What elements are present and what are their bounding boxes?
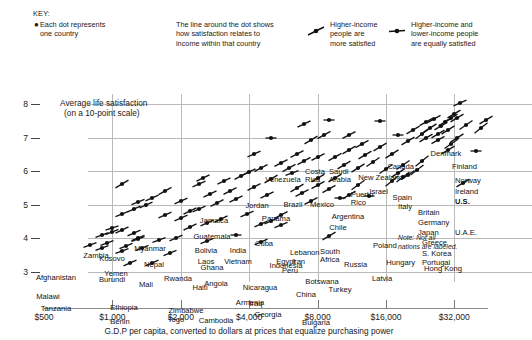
point-label-canada: Canada: [387, 163, 414, 171]
point-label-bolivia: Bolivia: [195, 247, 217, 255]
point-label-jordan: Jordan: [245, 202, 268, 210]
y-tick-label: 7: [12, 133, 28, 143]
point-label-angola: Angola: [204, 280, 228, 288]
flat-slope-icon: [387, 25, 407, 37]
point-label-ethiopia: Ethiopia: [110, 304, 137, 312]
key-item-flat-slope-meaning: Higher-income andlower-income peopleare …: [411, 20, 478, 48]
x-tick-mark: [318, 300, 319, 309]
point-label-burundi: Burundi: [99, 276, 125, 284]
point-label-mexico: Mexico: [310, 201, 334, 209]
point-label-panama: Panama: [262, 215, 290, 223]
key-item-line-meaning: The line around the dot showshow satisfa…: [176, 20, 274, 48]
point-label-rwanda: Rwanda: [164, 275, 192, 283]
y-axis-label-line2: (on a 10-point scale): [60, 108, 147, 118]
point-label-u-a-e: U.A.E.: [455, 229, 477, 237]
point-label-zambia: Zambia: [83, 252, 108, 260]
x-gridline: [181, 94, 182, 282]
key-item-dot-meaning-line2: one country: [33, 29, 105, 38]
point-label-saudi-arabia: SaudiArabia: [329, 168, 351, 184]
data-point-venezuela: [295, 117, 313, 131]
data-point-puerto-rico: [389, 128, 407, 142]
data-point-jordan: [262, 131, 280, 145]
point-label-hungary: Hungary: [386, 259, 415, 267]
data-point-mexico: [340, 128, 358, 142]
point-label-hong-kong: Hong Kong: [424, 265, 462, 273]
point-label-finland: Finland: [452, 163, 477, 171]
point-label-south-africa: SouthAfrica: [320, 248, 340, 264]
key-title: KEY:: [33, 9, 50, 18]
y-tick-label: 3: [12, 267, 28, 277]
key-item-steep-slope-meaning-line1: Higher-income: [330, 20, 377, 29]
point-label-poland: Poland: [373, 242, 397, 250]
point-label-india: India: [230, 247, 246, 255]
key-item-line-meaning-line2: how satisfaction relates to: [176, 29, 274, 38]
data-point-bolivia: [232, 169, 250, 183]
point-label-new-zealand: New Zealand: [358, 174, 403, 182]
x-axis-label: G.D.P per capita, converted to dollars a…: [0, 326, 498, 336]
data-point-vietnam: [190, 177, 208, 191]
point-label-togo: Togo: [168, 316, 184, 324]
key-item-flat-slope-meaning-line1: Higher-income and: [411, 20, 478, 29]
point-label-ghana: Ghana: [201, 264, 224, 272]
data-point-panama: [302, 133, 320, 147]
key-item-steep-slope-meaning-line2: people are: [330, 29, 377, 38]
point-label-japan: Japan: [418, 229, 439, 237]
point-label-vietnam: Vietnam: [224, 258, 252, 266]
key-dot-icon: ●: [33, 20, 40, 29]
point-label-indonesia: Indonesia: [270, 262, 303, 270]
key-item-line-meaning-line1: The line around the dot shows: [176, 20, 274, 29]
point-label-denmark: Denmark: [431, 150, 462, 158]
data-point: [309, 150, 327, 164]
x-tick-label: $500: [14, 312, 74, 322]
point-label-jamaica: Jamaica: [200, 217, 228, 225]
point-label-mali: Mali: [139, 281, 153, 289]
steep-slope-icon: [306, 25, 326, 37]
y-tick-mark: [31, 104, 40, 105]
point-label-latvia: Latvia: [372, 275, 392, 283]
key-item-flat-slope-meaning-line2: lower-income people: [411, 29, 478, 38]
data-point-u-a-e: [467, 144, 485, 158]
data-point-laos: [172, 194, 190, 208]
x-tick-label: $16,000: [356, 312, 416, 322]
point-label-iraq: Iraq: [249, 300, 262, 308]
point-label-tanzania: Tanzania: [41, 305, 71, 313]
point-label-brazil: Brazil: [284, 201, 303, 209]
data-point: [288, 147, 306, 161]
y-tick-label: 8: [12, 99, 28, 109]
data-point-jamaica: [245, 147, 263, 161]
data-point-myanmar: [113, 177, 131, 191]
data-point-ghana: [137, 198, 155, 212]
point-label-bulgaria: Bulgaria: [302, 319, 330, 327]
point-label-puerto-rico: PuertoRico: [351, 191, 373, 207]
data-point-indonesia: [221, 184, 239, 198]
key-item-steep-slope-meaning: Higher-incomepeople aremore satisfied: [330, 20, 377, 48]
scatter-plot: Average life satisfaction (on a 10-point…: [0, 62, 498, 340]
point-label-guatemala: Guatemala: [193, 233, 230, 241]
point-label-myanmar: Myanmar: [134, 245, 166, 253]
point-label-norway: Norway: [455, 177, 481, 185]
y-tick-mark: [31, 238, 40, 239]
key-item-dot-meaning: ●Each dot representsone country: [33, 20, 105, 39]
point-label-argentina: Argentina: [332, 213, 365, 221]
point-label-afghanistan: Afghanistan: [36, 274, 76, 282]
point-label-italy: Italy: [398, 203, 412, 211]
key-item-line-meaning-line3: income within that country: [176, 39, 274, 48]
point-label-venezuela: Venezuela: [265, 176, 300, 184]
point-label-nicaragua: Nicaragua: [243, 284, 278, 292]
data-point-rwanda: [113, 223, 131, 237]
point-label-turkey: Turkey: [329, 286, 352, 294]
y-tick-mark: [31, 205, 40, 206]
point-label-u-s: U.S.: [455, 198, 470, 206]
data-point-nepal: [113, 207, 131, 221]
y-tick-mark: [31, 138, 40, 139]
point-label-malawi: Malawi: [36, 293, 60, 301]
point-label-cuba: Cuba: [255, 240, 273, 248]
x-tick-label: $32,000: [424, 312, 484, 322]
y-axis-label: Average life satisfaction (on a 10-point…: [60, 98, 147, 119]
point-label-nepal: Nepal: [144, 261, 164, 269]
y-tick-label: 5: [12, 200, 28, 210]
point-label-germany: Germany: [418, 219, 449, 227]
y-tick-mark: [31, 171, 40, 172]
y-gridline: [88, 272, 532, 273]
point-label-china: China: [296, 291, 316, 299]
